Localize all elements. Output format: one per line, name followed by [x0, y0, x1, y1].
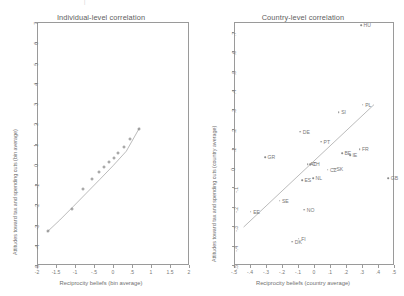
data-point [309, 163, 311, 165]
x-axis-label-country: Reciprocity beliefs (country average) [202, 280, 404, 286]
data-point [112, 156, 115, 159]
data-point [279, 200, 281, 202]
x-tick-label: .1 [328, 269, 332, 275]
y-tick-label: .6 [231, 51, 237, 55]
x-tick-label: 0 [313, 269, 316, 275]
data-point [320, 141, 322, 143]
y-tick-label: 0 [230, 168, 236, 171]
x-tick-label: -.2 [279, 269, 285, 275]
x-tick [378, 265, 379, 268]
data-point [137, 127, 140, 130]
x-tick [75, 265, 76, 268]
data-point [333, 168, 335, 170]
y-tick-label: .1 [231, 148, 237, 152]
figure-root: | Individual-level correlation Attitudes… [0, 0, 404, 296]
x-tick [113, 265, 114, 268]
data-point-label: PL [365, 102, 371, 108]
data-point [82, 188, 85, 191]
y-tick-label: 5 [33, 63, 39, 66]
data-point [107, 160, 110, 163]
y-tick-label: 2 [33, 123, 39, 126]
plot-area-individual [37, 22, 189, 265]
data-point-label: CH [312, 161, 319, 167]
data-point-label: GR [268, 154, 275, 160]
x-tick-label: 2 [188, 269, 191, 275]
data-point [97, 171, 100, 174]
data-point-label: SE [282, 198, 289, 204]
data-point-label: NO [307, 207, 314, 213]
y-tick-label: -4 [34, 245, 40, 249]
x-tick-label: -.5 [91, 269, 97, 275]
data-point [360, 24, 362, 26]
data-point-label: IE [352, 152, 357, 158]
x-tick [330, 265, 331, 268]
data-point [70, 207, 73, 210]
x-tick [132, 265, 133, 268]
data-point [341, 152, 343, 154]
data-point [122, 146, 125, 149]
y-tick-label: .3 [231, 109, 237, 113]
y-tick-label: -3 [34, 225, 40, 229]
x-tick [266, 265, 267, 268]
y-tick-label: -2 [34, 204, 40, 208]
y-tick-label: .4 [231, 90, 237, 94]
data-point-label: HU [364, 22, 371, 28]
y-tick-label: 6 [33, 42, 39, 45]
data-point [301, 180, 303, 182]
y-tick-label: -5 [34, 265, 40, 269]
data-point-label: EE [253, 209, 260, 215]
y-axis-label-country: Attitudes toward tax and spending cuts (… [211, 126, 217, 262]
data-point [349, 154, 351, 156]
x-tick [250, 265, 251, 268]
x-tick [362, 265, 363, 268]
y-tick-label: 7 [33, 22, 39, 25]
data-point [312, 178, 314, 180]
panel-title-country: Country-level correlation [202, 13, 404, 22]
x-tick-label: -1.5 [52, 269, 61, 275]
y-tick-label: .5 [231, 71, 237, 75]
x-tick-label: 1 [150, 269, 153, 275]
data-point-label: DE [303, 129, 310, 135]
x-tick [151, 265, 152, 268]
x-tick-label: .4 [376, 269, 380, 275]
y-tick-label: -.2 [233, 207, 239, 213]
data-point [359, 149, 361, 151]
data-point-label: ES [304, 177, 311, 183]
x-tick-label: -.1 [295, 269, 301, 275]
x-tick-label: 0 [112, 269, 115, 275]
panel-country-level: Country-level correlation Attitudes towa… [202, 0, 404, 296]
x-tick-label: -1 [73, 269, 77, 275]
data-point [298, 238, 300, 240]
y-tick-label: 3 [33, 103, 39, 106]
data-point [117, 151, 120, 154]
y-tick-label: 0 [33, 164, 39, 167]
data-point [304, 209, 306, 211]
data-point [102, 165, 105, 168]
data-point [307, 163, 309, 165]
data-point [362, 104, 364, 106]
data-point-label: PT [324, 139, 330, 145]
x-tick [170, 265, 171, 268]
data-point-label: NL [316, 175, 322, 181]
y-tick-label: 4 [33, 83, 39, 86]
x-tick [282, 265, 283, 268]
data-point-label: SI [341, 109, 346, 115]
x-tick-label: 1.5 [167, 269, 174, 275]
x-tick [56, 265, 57, 268]
panel-individual-level: Individual-level correlation Attitudes t… [0, 0, 202, 296]
data-point [292, 241, 294, 243]
data-point [338, 112, 340, 114]
x-tick [394, 265, 395, 268]
y-axis-label-individual: Attitudes toward tax and spending cuts (… [12, 129, 18, 255]
data-point-label: FI [301, 236, 305, 242]
data-point [46, 229, 49, 232]
y-tick-label: -1 [34, 184, 40, 188]
x-tick [346, 265, 347, 268]
data-point [388, 178, 390, 180]
x-tick-label: -.3 [263, 269, 269, 275]
x-tick-label: .5 [392, 269, 396, 275]
y-tick-label: -.1 [233, 187, 239, 193]
data-point [250, 211, 252, 213]
data-point [327, 169, 329, 171]
panel-title-individual: Individual-level correlation [0, 13, 202, 22]
